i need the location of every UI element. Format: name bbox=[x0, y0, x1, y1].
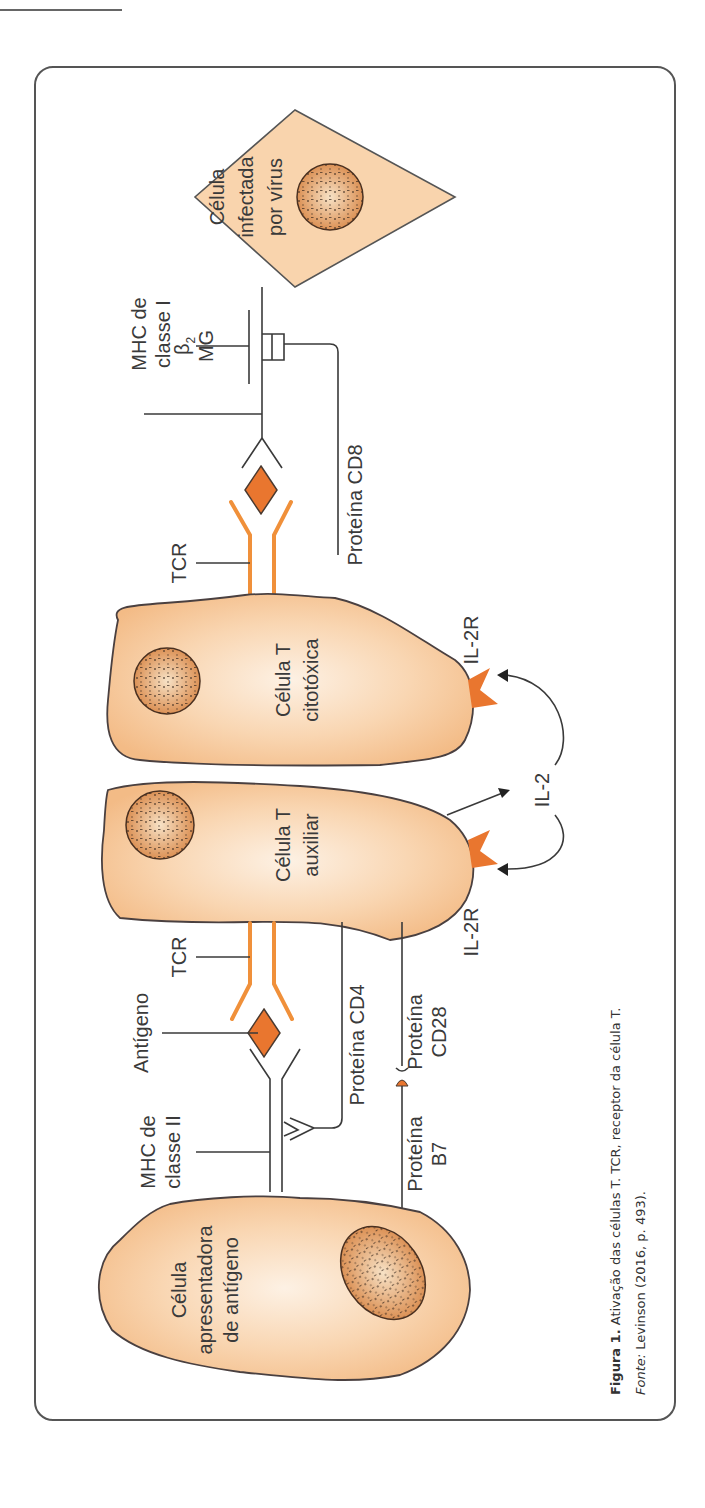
tcr-helper-label: TCR bbox=[168, 936, 190, 977]
antigen-label: Antígeno bbox=[130, 993, 152, 1073]
figure-source: Fonte: Levinson (2016, p. 493). bbox=[633, 1191, 648, 1395]
mhc1-fork bbox=[242, 438, 282, 468]
apc-label-1: Célula bbox=[168, 1261, 190, 1319]
b7-knob bbox=[396, 1080, 408, 1086]
antigen-class1 bbox=[245, 466, 277, 514]
il2-loop-to-helper bbox=[505, 815, 563, 869]
il2-loop-to-cytotoxic bbox=[505, 675, 563, 765]
b7-label-2: B7 bbox=[428, 1142, 450, 1166]
cd8-clamp bbox=[262, 334, 284, 360]
cd4-clamp bbox=[284, 1118, 314, 1140]
mhc2-label-2: classe II bbox=[162, 1115, 184, 1188]
apc-label-3: de antígeno bbox=[220, 1237, 242, 1343]
il2-label: IL-2 bbox=[531, 773, 553, 807]
il2-arrowhead bbox=[498, 788, 510, 798]
mhc2-molecule bbox=[250, 1049, 300, 1192]
il2-loop-arrowhead-cytotoxic bbox=[497, 669, 508, 682]
cd8-line bbox=[284, 344, 338, 555]
cytotoxic-label-2: citotóxica bbox=[300, 637, 322, 721]
il2r-helper-receptor bbox=[468, 830, 498, 868]
b2mg-label-beta: β2 bbox=[171, 337, 198, 356]
cd4-label: Proteína CD4 bbox=[346, 984, 368, 1105]
il2r-helper-label: IL-2R bbox=[460, 908, 482, 957]
cd28-label-1: Proteína bbox=[404, 993, 426, 1069]
figure-caption: Figura 1. Ativação das células T. TCR, r… bbox=[608, 1008, 623, 1395]
infected-cell-label-2: infectada bbox=[235, 156, 257, 238]
infected-cell-label-3: por vírus bbox=[264, 158, 286, 236]
il2-loop-arrowhead-helper bbox=[497, 863, 508, 876]
mhc1-label-1: MHC de bbox=[128, 297, 150, 370]
tcr-helper bbox=[232, 923, 292, 1019]
b7-label-1: Proteína bbox=[404, 1115, 426, 1191]
il2r-cytotoxic-receptor bbox=[468, 668, 498, 708]
infected-cell-label-1: Célula bbox=[206, 168, 228, 226]
tcr-cytotoxic bbox=[231, 502, 291, 595]
tcr-cytotoxic-label: TCR bbox=[168, 542, 190, 583]
cd28-label-2: CD28 bbox=[428, 1006, 450, 1057]
cytotoxic-label-1: Célula T bbox=[272, 643, 294, 717]
cd8-label: Proteína CD8 bbox=[344, 444, 366, 565]
antigen-presenting-cell bbox=[99, 1196, 470, 1380]
mhc2-label-1: MHC de bbox=[137, 1115, 159, 1188]
helper-label-1: Célula T bbox=[272, 808, 294, 882]
infected-cell bbox=[195, 110, 455, 287]
b2mg-label-mg: MG bbox=[195, 330, 217, 362]
figure-canvas: Célula infectada por vírus MHC de classe… bbox=[0, 0, 705, 1508]
cd4-line bbox=[314, 922, 342, 1128]
helper-label-2: auxiliar bbox=[300, 813, 322, 877]
il2-secretion-arrow bbox=[447, 792, 505, 815]
apc-label-2: apresentadora bbox=[194, 1225, 216, 1355]
mhc1-label-2: classe I bbox=[152, 300, 174, 368]
il2r-cytotoxic-label: IL-2R bbox=[460, 616, 482, 665]
